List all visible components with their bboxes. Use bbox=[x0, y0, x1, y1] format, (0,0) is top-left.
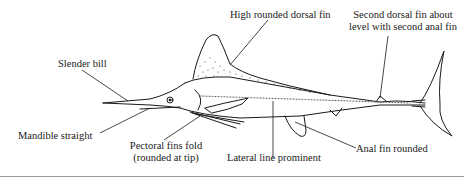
bottom-divider bbox=[0, 176, 464, 177]
leader-dorsal-fin bbox=[230, 20, 268, 65]
leader-second-dorsal-fin bbox=[380, 36, 388, 98]
second-dorsal-fin-outline bbox=[376, 96, 386, 102]
label-second-dorsal-line2: level with second anal fin bbox=[342, 21, 464, 33]
body-lower-outline bbox=[180, 105, 425, 118]
leader-mandible bbox=[100, 108, 150, 133]
label-pectoral-fin: Pectoral fins fold (rounded at tip) bbox=[124, 140, 208, 164]
label-anal-fin: Anal fin rounded bbox=[356, 143, 428, 155]
label-lateral-line: Lateral line prominent bbox=[227, 152, 321, 164]
pectoral-fin-outline bbox=[205, 98, 248, 113]
mandible-outline bbox=[140, 107, 180, 109]
leader-pectoral-fin bbox=[164, 116, 200, 140]
label-bill: Slender bill bbox=[58, 58, 107, 70]
label-pectoral-line1: Pectoral fins fold bbox=[124, 140, 208, 152]
label-pectoral-line2: (rounded at tip) bbox=[124, 152, 208, 164]
leader-bill bbox=[82, 70, 128, 101]
label-dorsal-fin: High rounded dorsal fin bbox=[230, 9, 331, 21]
gill-outline bbox=[195, 90, 201, 110]
pelvic-fin-outline bbox=[190, 112, 244, 128]
anal-fin-outline bbox=[285, 116, 306, 136]
second-anal-fin-outline bbox=[330, 108, 342, 116]
tail-fin-outline bbox=[420, 51, 452, 136]
fish-diagram: High rounded dorsal fin Second dorsal fi… bbox=[0, 0, 464, 179]
label-second-dorsal-line1: Second dorsal fin about bbox=[342, 9, 464, 21]
dorsal-fin-outline bbox=[193, 35, 330, 95]
label-second-dorsal-fin: Second dorsal fin about level with secon… bbox=[342, 9, 464, 33]
label-mandible: Mandible straight bbox=[18, 130, 92, 142]
leader-anal-fin bbox=[295, 122, 356, 148]
